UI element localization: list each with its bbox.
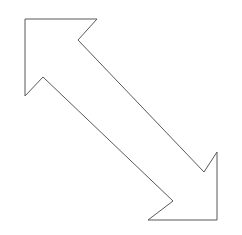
double-headed-arrow-graphic [0, 0, 242, 235]
drawing-canvas [0, 0, 242, 235]
double-headed-diagonal-arrow-shape [25, 19, 217, 220]
